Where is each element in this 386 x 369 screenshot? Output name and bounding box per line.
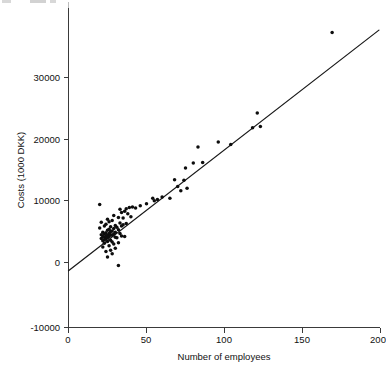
data-point <box>106 255 110 259</box>
data-point <box>112 242 116 246</box>
data-point <box>134 206 138 210</box>
data-point <box>117 216 121 220</box>
y-axis: 30000 20000 10000 0 -10000 Costs (1000 D… <box>15 8 69 333</box>
data-point <box>196 145 200 149</box>
data-point <box>168 196 172 200</box>
data-point <box>98 226 102 230</box>
data-point <box>98 203 102 207</box>
x-axis-title: Number of employees <box>178 351 271 362</box>
data-point <box>139 204 143 208</box>
data-point <box>117 264 121 268</box>
data-point <box>185 187 189 191</box>
data-point <box>173 178 177 182</box>
x-tick-label-100: 100 <box>216 334 232 345</box>
data-point <box>107 220 111 224</box>
data-points-layer <box>98 31 334 267</box>
data-point <box>115 236 119 240</box>
data-point <box>121 216 125 220</box>
data-point <box>251 126 255 130</box>
data-point <box>145 202 149 206</box>
data-point <box>106 240 110 244</box>
data-point <box>128 206 132 210</box>
data-point <box>129 215 133 219</box>
data-point <box>114 230 118 234</box>
data-point <box>179 189 183 193</box>
data-point <box>112 214 116 218</box>
data-point <box>217 140 221 144</box>
data-point <box>117 241 121 245</box>
data-point <box>101 245 105 249</box>
data-point <box>160 195 164 199</box>
data-point <box>124 207 128 211</box>
data-point <box>118 208 122 212</box>
y-tick-label-neg10000: -10000 <box>30 322 60 333</box>
data-point <box>176 185 180 189</box>
data-point <box>103 242 107 246</box>
y-tick-label-30000: 30000 <box>34 72 60 83</box>
edge-scan-artifacts <box>2 0 69 12</box>
data-point <box>229 143 233 147</box>
x-tick-label-200: 200 <box>370 334 386 345</box>
data-point <box>126 212 130 216</box>
data-point <box>114 247 118 251</box>
data-point <box>153 199 157 203</box>
data-point <box>109 225 113 229</box>
data-point <box>192 161 196 165</box>
y-tick-label-20000: 20000 <box>34 134 60 145</box>
data-point <box>330 31 334 35</box>
data-point <box>112 227 116 231</box>
x-axis: 0 50 100 150 200 Number of employees <box>65 328 386 363</box>
data-point <box>118 221 122 225</box>
data-point <box>156 198 160 202</box>
x-tick-label-0: 0 <box>65 334 70 345</box>
data-point <box>256 111 260 115</box>
scatter-plot-figure: 30000 20000 10000 0 -10000 Costs (1000 D… <box>0 0 386 369</box>
y-tick-label-10000: 10000 <box>34 195 60 206</box>
data-point <box>201 161 205 165</box>
x-tick-label-150: 150 <box>294 334 310 345</box>
data-point <box>124 222 128 226</box>
data-point <box>110 252 114 256</box>
data-point <box>104 222 108 226</box>
data-point <box>117 228 121 232</box>
data-point <box>121 223 125 227</box>
x-tick-label-50: 50 <box>141 334 152 345</box>
y-tick-label-0: 0 <box>55 257 60 268</box>
data-point <box>110 219 114 223</box>
data-point <box>123 235 127 239</box>
data-point <box>184 166 188 170</box>
data-point <box>131 205 135 209</box>
data-point <box>104 250 108 254</box>
y-axis-title: Costs (1000 DKK) <box>15 132 26 209</box>
data-point <box>120 234 124 238</box>
data-point <box>100 221 104 225</box>
plot-canvas: 30000 20000 10000 0 -10000 Costs (1000 D… <box>0 0 386 369</box>
data-point <box>109 248 113 252</box>
data-point <box>120 211 124 215</box>
data-point <box>107 244 111 248</box>
data-point <box>182 179 186 183</box>
data-point <box>259 125 263 129</box>
